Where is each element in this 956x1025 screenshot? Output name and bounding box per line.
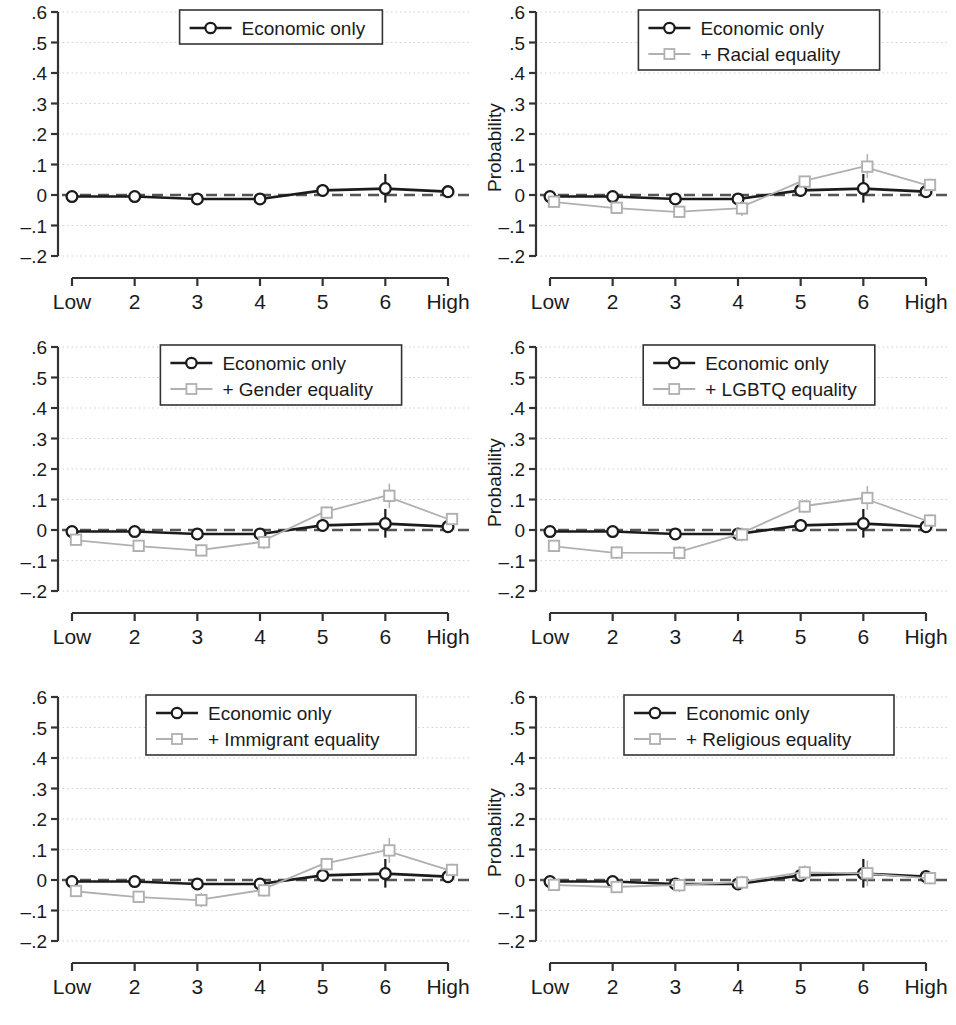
- y-tick-label: –.2: [499, 931, 525, 952]
- y-tick-label: .6: [31, 337, 47, 358]
- legend-marker-circle: [664, 23, 674, 33]
- x-axis: Low23456High: [53, 278, 470, 313]
- x-tick-label: 2: [129, 290, 141, 313]
- y-tick-label: .2: [509, 809, 525, 830]
- x-tick-label: 5: [317, 975, 329, 998]
- series-economic: [67, 174, 454, 204]
- panel-racial-equality-canvas: –.2–.10.1.2.3.4.5.6Low23456HighEconomic …: [478, 0, 956, 335]
- x-tick-label: 4: [254, 290, 266, 313]
- marker-square: [674, 207, 684, 217]
- y-tick-label: .6: [509, 337, 525, 358]
- y-axis: –.2–.10.1.2.3.4.5.6: [21, 2, 58, 267]
- y-tick-label: –.2: [499, 246, 525, 267]
- legend-label: Economic only: [242, 18, 366, 39]
- marker-circle: [192, 194, 203, 205]
- legend: Economic only+ Gender equality: [160, 345, 401, 405]
- marker-circle: [795, 520, 806, 531]
- marker-square: [71, 886, 81, 896]
- marker-circle: [129, 526, 140, 537]
- legend-marker-square: [664, 49, 674, 59]
- series-equality: [71, 484, 457, 557]
- panel-religious-equality: –.2–.10.1.2.3.4.5.6Low23456HighEconomic …: [478, 685, 956, 1025]
- y-tick-label: 0: [514, 870, 525, 891]
- legend: Economic only+ Immigrant equality: [146, 695, 416, 755]
- marker-circle: [67, 191, 78, 202]
- x-tick-label: Low: [531, 975, 570, 998]
- marker-circle: [670, 529, 681, 540]
- x-tick-label: 5: [317, 290, 329, 313]
- panel-immigrant-equality-canvas: –.2–.10.1.2.3.4.5.6Low23456HighEconomic …: [0, 685, 478, 1025]
- marker-circle: [545, 526, 556, 537]
- x-tick-label: 4: [732, 290, 744, 313]
- legend-label: Economic only: [208, 703, 332, 724]
- y-tick-label: –.1: [499, 216, 525, 237]
- legend-marker-circle: [172, 708, 182, 718]
- legend-label: Economic only: [222, 353, 346, 374]
- marker-square: [321, 507, 331, 517]
- x-axis: Low23456High: [531, 278, 948, 313]
- marker-circle: [317, 870, 328, 881]
- x-tick-label: Low: [53, 625, 92, 648]
- x-tick-label: 4: [254, 975, 266, 998]
- x-axis: Low23456High: [531, 963, 948, 998]
- marker-square: [799, 867, 809, 877]
- y-axis: –.2–.10.1.2.3.4.5.6: [21, 337, 58, 602]
- y-tick-label: –.1: [21, 901, 47, 922]
- marker-square: [384, 491, 394, 501]
- panel-lgbtq-equality-canvas: –.2–.10.1.2.3.4.5.6Low23456HighEconomic …: [478, 335, 956, 685]
- legend-label: + Racial equality: [700, 44, 840, 65]
- y-tick-label: .6: [509, 2, 525, 23]
- legend: Economic only+ Religious equality: [624, 695, 894, 755]
- x-tick-label: 2: [607, 290, 619, 313]
- x-tick-label: 4: [732, 625, 744, 648]
- marker-square: [799, 501, 809, 511]
- marker-square: [447, 865, 457, 875]
- legend-marker-circle: [650, 708, 660, 718]
- marker-circle: [670, 194, 681, 205]
- x-tick-label: 3: [191, 625, 203, 648]
- y-tick-label: .5: [31, 33, 47, 54]
- marker-square: [925, 515, 935, 525]
- y-tick-label: –.2: [499, 581, 525, 602]
- y-tick-label: .3: [509, 779, 525, 800]
- marker-square: [611, 547, 621, 557]
- panel-economic-only-canvas: –.2–.10.1.2.3.4.5.6Low23456HighEconomic …: [0, 0, 478, 335]
- x-tick-label: 6: [857, 625, 869, 648]
- panel-gender-equality: –.2–.10.1.2.3.4.5.6Low23456HighEconomic …: [0, 335, 478, 685]
- marker-circle: [255, 194, 266, 205]
- x-tick-label: 3: [191, 290, 203, 313]
- x-tick-label: High: [904, 290, 947, 313]
- y-axis-title: Probability: [484, 438, 506, 527]
- y-tick-label: 0: [36, 870, 47, 891]
- y-tick-label: .1: [31, 490, 47, 511]
- legend-marker-circle: [186, 358, 196, 368]
- marker-square: [549, 197, 559, 207]
- marker-square: [549, 541, 559, 551]
- marker-circle: [443, 186, 454, 197]
- marker-square: [259, 885, 269, 895]
- marker-square: [133, 541, 143, 551]
- x-tick-label: 6: [857, 975, 869, 998]
- x-tick-label: 5: [795, 975, 807, 998]
- marker-circle: [858, 183, 869, 194]
- legend: Economic only: [180, 10, 383, 44]
- y-tick-label: .1: [509, 155, 525, 176]
- y-tick-label: .6: [31, 687, 47, 708]
- x-tick-label: 3: [191, 975, 203, 998]
- legend-label: + LGBTQ equality: [705, 379, 857, 400]
- legend-marker-circle: [205, 23, 215, 33]
- marker-square: [611, 203, 621, 213]
- marker-circle: [607, 526, 618, 537]
- y-tick-label: .6: [31, 2, 47, 23]
- marker-square: [674, 880, 684, 890]
- marker-square: [321, 859, 331, 869]
- panel-religious-equality-canvas: –.2–.10.1.2.3.4.5.6Low23456HighEconomic …: [478, 685, 956, 1025]
- marker-circle: [317, 185, 328, 196]
- series-equality: [549, 154, 935, 217]
- x-tick-label: 4: [254, 625, 266, 648]
- marker-square: [674, 548, 684, 558]
- gridlines: [58, 12, 472, 256]
- x-tick-label: 6: [379, 975, 391, 998]
- marker-circle: [129, 876, 140, 887]
- y-tick-label: –.1: [499, 901, 525, 922]
